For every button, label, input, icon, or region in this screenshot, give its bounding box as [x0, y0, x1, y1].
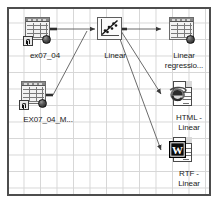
scatter-regression-icon — [97, 17, 123, 41]
node-linear[interactable]: Linear — [92, 17, 138, 63]
node-label-linear-regression: Linear regressio... — [154, 51, 211, 70]
html-document-icon — [169, 81, 193, 107]
node-ex07-04-m[interactable]: EX07_04_M... — [17, 81, 77, 127]
script-badge-icon — [23, 36, 33, 46]
dataset-ball-icon — [38, 99, 47, 108]
node-label-ex07-04-m: EX07_04_M... — [11, 115, 85, 125]
script-badge-icon — [19, 100, 29, 110]
dataset-spreadsheet-icon — [19, 81, 53, 113]
workflow-canvas[interactable]: ex07_04 — [7, 7, 211, 196]
node-label-html-linear: HTML - Linear — [163, 113, 211, 132]
dataset-ball-icon — [42, 35, 51, 44]
node-rtf-linear[interactable]: W RTF - Linear — [163, 137, 211, 193]
svg-text:W: W — [172, 144, 183, 156]
node-html-linear[interactable]: HTML - Linear — [163, 81, 211, 137]
rtf-document-icon: W — [169, 137, 193, 163]
dataset-spreadsheet-icon — [167, 17, 201, 49]
node-label-ex07-04: ex07_04 — [15, 51, 75, 61]
dataset-ball-icon — [186, 35, 195, 44]
dataset-spreadsheet-icon — [23, 17, 57, 49]
node-linear-regression[interactable]: Linear regressio... — [161, 17, 211, 73]
node-label-linear: Linear — [89, 51, 141, 61]
node-ex07-04[interactable]: ex07_04 — [19, 17, 71, 63]
node-label-rtf-linear: RTF - Linear — [163, 169, 211, 188]
internet-explorer-icon — [169, 86, 187, 103]
word-w-icon: W — [169, 141, 186, 158]
